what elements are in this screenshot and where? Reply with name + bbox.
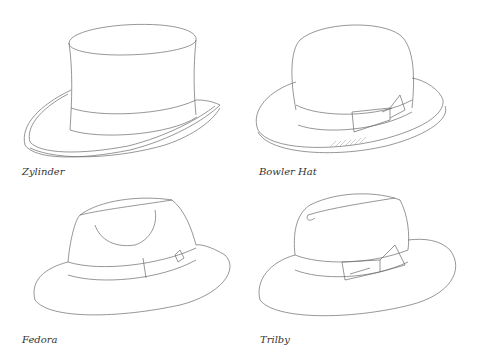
bowler-illustration	[240, 0, 477, 180]
hat-label-bowler: Bowler Hat	[259, 166, 317, 177]
fedora-illustration	[0, 180, 240, 354]
hat-label-trilby: Trilby	[260, 334, 290, 345]
zylinder-illustration	[0, 0, 240, 180]
hat-label-zylinder: Zylinder	[22, 166, 65, 177]
hat-panel-trilby: Trilby	[240, 180, 477, 354]
hat-panel-fedora: Fedora	[0, 180, 240, 354]
hat-panel-bowler: Bowler Hat	[240, 0, 477, 180]
trilby-illustration	[240, 180, 477, 354]
hat-panel-zylinder: Zylinder	[0, 0, 240, 180]
hat-label-fedora: Fedora	[22, 334, 57, 345]
